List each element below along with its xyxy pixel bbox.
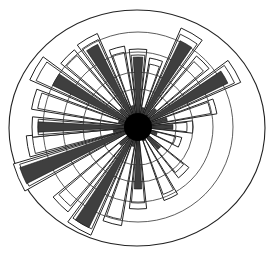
rose-diagram [0, 0, 270, 253]
center-hub [124, 113, 152, 141]
rose-diagram-svg [0, 0, 270, 253]
